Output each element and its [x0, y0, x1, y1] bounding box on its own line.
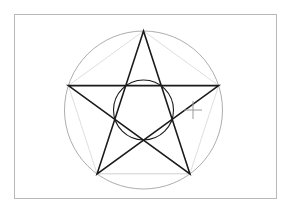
chord-top-left: [68, 31, 143, 86]
chord-top-right: [144, 31, 219, 86]
crosshair-cursor: [184, 101, 202, 119]
application-window: [0, 0, 293, 216]
pentagram-star[interactable]: [68, 31, 218, 174]
drawing-surface[interactable]: [0, 0, 293, 216]
inner-circle: [114, 80, 174, 140]
